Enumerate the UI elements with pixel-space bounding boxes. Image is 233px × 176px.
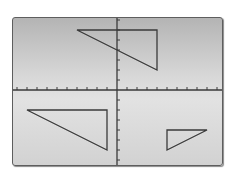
triangle-bottom-right: [167, 130, 207, 150]
calculator-screen: [12, 17, 223, 166]
coordinate-plane: [13, 18, 223, 166]
triangle-bottom-left: [27, 110, 107, 150]
axes: [13, 18, 223, 166]
